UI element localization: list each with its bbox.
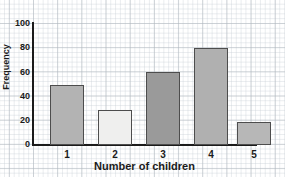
- x-axis-title: Number of children: [32, 160, 257, 172]
- y-axis-title: Frequency: [1, 37, 11, 97]
- bars-container: [0, 0, 285, 145]
- bar-1: [50, 85, 84, 146]
- x-tick-label-5: 5: [234, 149, 274, 160]
- chart-plot-area: 100 80 60 40 20 0 1 2 3 4 5 Frequency Nu…: [0, 0, 285, 177]
- bar-3: [146, 72, 180, 145]
- x-tick-label-1: 1: [47, 149, 87, 160]
- x-tick-label-3: 3: [143, 149, 183, 160]
- bar-chart-screenshot: 100 80 60 40 20 0 1 2 3 4 5 Frequency Nu…: [0, 0, 285, 177]
- x-tick-label-2: 2: [95, 149, 135, 160]
- x-tick-label-4: 4: [191, 149, 231, 160]
- bar-5: [237, 122, 271, 145]
- bar-4: [194, 48, 228, 145]
- bar-2: [98, 110, 132, 145]
